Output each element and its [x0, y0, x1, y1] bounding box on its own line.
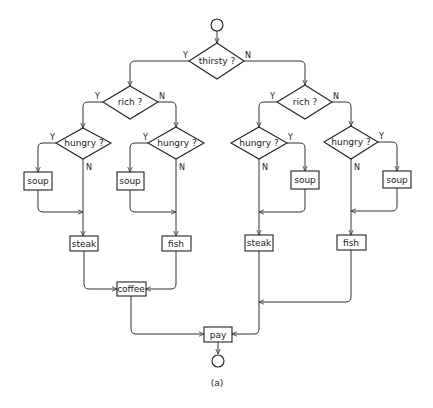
decision-rich-left: rich ? Y N	[94, 86, 165, 119]
edge-steak-left-coffee	[84, 251, 117, 289]
decision-label: hungry ?	[331, 137, 371, 147]
yes-label: Y	[142, 133, 148, 142]
flowchart-canvas: thirsty ? Y N rich ? Y N rich ? Y N hung…	[0, 0, 433, 408]
edge-rich-right-no	[332, 102, 351, 126]
process-soup-4: soup	[383, 171, 411, 188]
edge-hungry1-yes	[38, 143, 56, 172]
edge-hungry2-yes	[130, 143, 148, 172]
decision-hungry-3: hungry ? Y N	[231, 127, 293, 172]
edge-fish-left-coffee	[146, 251, 176, 289]
start-terminal	[211, 19, 223, 31]
decision-hungry-4: hungry ? Y N	[324, 126, 384, 172]
yes-label: Y	[378, 132, 384, 141]
edge-coffee-pay	[131, 296, 204, 334]
no-label: N	[245, 51, 251, 60]
process-soup-3: soup	[291, 171, 319, 189]
process-label: steak	[247, 238, 272, 248]
process-label: pay	[210, 330, 227, 340]
edge-rich-right-yes	[259, 102, 277, 127]
yes-label: Y	[182, 51, 188, 60]
decision-rich-right: rich ? Y N	[269, 85, 339, 119]
yes-label: Y	[287, 133, 293, 142]
process-label: soup	[27, 176, 49, 186]
no-label: N	[86, 163, 92, 172]
yes-label: Y	[94, 92, 100, 101]
process-coffee: coffee	[117, 282, 146, 296]
edge-soup1-merge	[38, 190, 83, 212]
decision-label: hungry ?	[64, 138, 104, 148]
connectors	[38, 31, 397, 354]
no-label: N	[159, 92, 165, 101]
edge-thirsty-yes	[130, 61, 189, 86]
decision-label: hungry ?	[157, 138, 197, 148]
no-label: N	[179, 163, 185, 172]
process-label: steak	[72, 239, 97, 249]
decision-hungry-2: hungry ? Y N	[142, 127, 204, 172]
process-fish-right: fish	[337, 235, 366, 250]
edge-soup2-merge	[130, 190, 176, 212]
decision-hungry-1: hungry ? Y N	[49, 128, 111, 172]
yes-label: Y	[269, 92, 275, 101]
process-fish-left: fish	[162, 236, 191, 251]
decision-label: hungry ?	[239, 138, 279, 148]
process-label: fish	[343, 238, 359, 248]
no-label: N	[262, 163, 268, 172]
edge-steak-right-pay	[232, 251, 259, 334]
edge-thirsty-no	[244, 61, 305, 85]
edge-soup3-merge	[259, 189, 305, 212]
decision-label: rich ?	[293, 97, 318, 107]
edge-soup4-merge	[351, 188, 397, 211]
process-label: soup	[294, 175, 316, 185]
decision-label: rich ?	[118, 97, 143, 107]
process-label: coffee	[117, 284, 145, 294]
process-soup-1: soup	[24, 172, 52, 190]
process-label: soup	[386, 175, 408, 185]
process-label: fish	[168, 239, 184, 249]
figure-caption: (a)	[211, 378, 224, 388]
process-label: soup	[119, 176, 141, 186]
process-steak-right: steak	[245, 235, 273, 251]
no-label: N	[333, 92, 339, 101]
edge-hungry3-yes	[287, 143, 305, 171]
yes-label: Y	[49, 133, 55, 142]
edge-hungry4-yes	[378, 142, 397, 171]
edge-fish-right-merge	[259, 250, 351, 302]
decision-label: thirsty ?	[199, 56, 236, 66]
end-terminal	[212, 355, 224, 367]
edge-rich-left-yes	[83, 102, 103, 128]
edge-rich-left-no	[158, 102, 176, 127]
process-soup-2: soup	[117, 172, 144, 190]
process-pay: pay	[204, 327, 232, 342]
process-steak-left: steak	[70, 236, 98, 251]
decision-thirsty: thirsty ? Y N	[182, 43, 251, 79]
no-label: N	[354, 163, 360, 172]
